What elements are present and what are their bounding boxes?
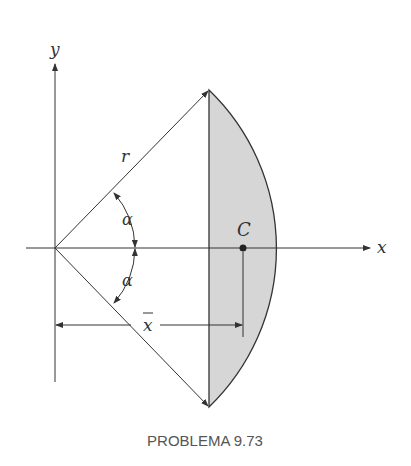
radius-label: r <box>121 146 130 166</box>
xbar-label: x <box>143 315 153 335</box>
angle-label-top: α <box>122 210 133 229</box>
angle-label-bottom: α <box>122 271 133 290</box>
centroid-label: C <box>237 219 251 240</box>
caption: PROBLEMA 9.73 <box>147 432 263 449</box>
x-axis-label: x <box>377 237 387 257</box>
y-axis-label: y <box>49 39 60 59</box>
segment-diagram: y x r α α C x PROBLEMA 9.73 <box>0 0 411 466</box>
centroid-point <box>240 245 247 252</box>
